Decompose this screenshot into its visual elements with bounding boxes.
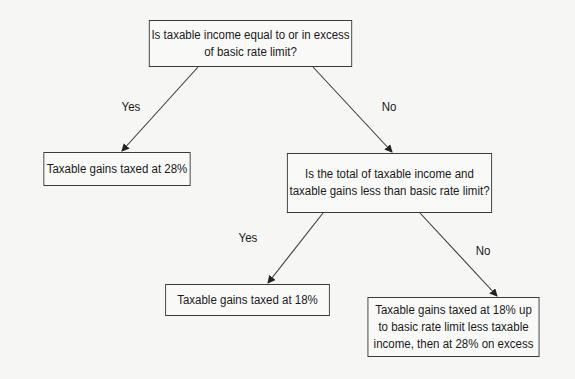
box-text-line: taxable gains less than basic rate limit… (289, 183, 489, 200)
decision-box-income-vs-limit: Is taxable income equal to or in excess … (149, 20, 352, 67)
outcome-box-18-percent: Taxable gains taxed at 18% (165, 284, 330, 316)
outcome-box-split-rate: Taxable gains taxed at 18% up to basic r… (367, 297, 539, 357)
edge-q2-yes (268, 213, 323, 283)
edge-label-yes: Yes (239, 231, 258, 245)
box-text-line: Taxable gains taxed at 18% up (374, 302, 534, 319)
edge-label-no: No (476, 244, 491, 258)
decision-box-total-vs-limit: Is the total of taxable income and taxab… (287, 153, 492, 213)
flowchart-canvas: Is taxable income equal to or in excess … (0, 0, 575, 379)
box-text-line: Taxable gains taxed at 28% (47, 161, 188, 178)
box-text-line: Taxable gains taxed at 18% (177, 292, 318, 309)
outcome-box-28-percent: Taxable gains taxed at 28% (43, 152, 190, 186)
box-text-line: of basic rate limit? (151, 44, 349, 61)
edge-label-no: No (382, 100, 397, 114)
edge-q1-no (313, 67, 392, 152)
edge-label-yes: Yes (122, 100, 141, 114)
box-text-line: Is taxable income equal to or in excess (151, 27, 349, 44)
box-text-line: to basic rate limit less taxable (374, 319, 534, 336)
box-text-line: Is the total of taxable income and (289, 166, 489, 183)
box-text-line: income, then at 28% on excess (374, 336, 534, 353)
